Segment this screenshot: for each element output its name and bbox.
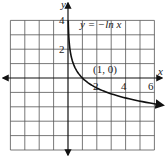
y-axis-label: y [60,0,66,10]
x-axis-label: x [157,65,163,77]
function-label: y = −ln x [79,18,122,30]
tick-label-y-4: 4 [59,14,65,26]
tick-label-x-6: 6 [148,80,154,92]
grid-lines [10,20,154,150]
tick-label-x-4: 4 [121,80,127,92]
tick-label-y-2: 2 [59,43,65,55]
tick-label-x-2: 2 [93,80,99,92]
point-annotation: (1, 0) [93,63,117,76]
function-graph: x y 4 2 2 4 6 y = −ln x (1, 0) [0,0,167,158]
